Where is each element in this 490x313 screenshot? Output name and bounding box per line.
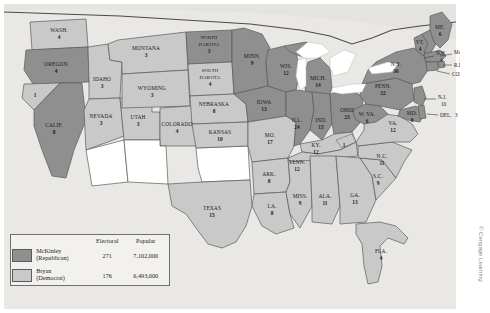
label-oh: OHIO xyxy=(340,107,354,113)
territory-new-mexico[interactable] xyxy=(124,140,168,184)
credit-line: © Cengage Learning xyxy=(475,226,487,310)
votes-al: 11 xyxy=(322,200,327,206)
votes-la: 8 xyxy=(271,210,274,216)
legend-name-mckinley: McKinley (Republican) xyxy=(33,245,92,265)
credit-text: © Cengage Learning xyxy=(478,226,484,281)
votes-nd: 3 xyxy=(208,48,211,54)
votes-nh: 4 xyxy=(440,57,443,63)
legend-name-bryan-line1: Bryan xyxy=(36,267,51,274)
votes-ky-split: 1 xyxy=(343,142,346,148)
legend-header-name xyxy=(33,235,92,245)
label-ne: NEBRASKA xyxy=(199,101,229,107)
legend-header-electoral: Electoral xyxy=(92,235,122,245)
votes-mi: 14 xyxy=(315,82,321,88)
election-map-1896: WASH. 4 OREGON 4 CALIF. 8 1 IDAHO 3 NEVA… xyxy=(0,0,490,313)
label-mo: MO. xyxy=(265,132,275,138)
label-nd-1: NORTH xyxy=(201,35,218,40)
label-mn: MINN. xyxy=(244,53,260,59)
votes-ca: 8 xyxy=(53,129,56,135)
legend-row-bryan[interactable]: Bryan (Democrat) 176 6,493,000 xyxy=(11,265,169,285)
label-tx: TEXAS xyxy=(203,205,221,211)
label-vt: VT. xyxy=(416,39,425,45)
votes-va: 12 xyxy=(390,127,396,133)
votes-nv: 3 xyxy=(100,120,103,126)
label-md: MD. xyxy=(407,110,417,116)
votes-co: 4 xyxy=(176,128,179,134)
votes-ut: 3 xyxy=(137,121,140,127)
label-nd-2: DAKOTA xyxy=(199,42,220,47)
votes-fl: 4 xyxy=(380,255,383,261)
label-wy: WYOMING xyxy=(138,85,166,91)
votes-vt: 4 xyxy=(419,46,422,52)
legend-electoral-bryan: 176 xyxy=(92,265,122,285)
label-nh: N.H. xyxy=(436,50,446,56)
label-ct: CONN. xyxy=(452,71,460,77)
votes-ia: 13 xyxy=(261,106,267,112)
legend-header-row: Electoral Popular xyxy=(11,235,169,245)
votes-ca-split: 1 xyxy=(34,92,37,98)
label-mi: MICH. xyxy=(310,75,326,81)
votes-wi: 12 xyxy=(283,70,289,76)
votes-ga: 13 xyxy=(352,199,358,205)
label-ut: UTAH xyxy=(130,114,145,120)
label-va: VA. xyxy=(389,120,398,126)
territory-oklahoma[interactable] xyxy=(196,146,250,182)
legend-swatch-cell-bryan xyxy=(11,265,33,285)
label-co: COLORADO xyxy=(161,121,192,127)
votes-me: 6 xyxy=(439,31,442,37)
label-nc: N.C. xyxy=(377,153,388,159)
label-wv: W. VA. xyxy=(359,111,376,117)
label-pa: PENN. xyxy=(375,83,391,89)
votes-md: 8 xyxy=(411,117,414,123)
label-mt: MONTANA xyxy=(132,45,160,51)
legend-electoral-mckinley: 271 xyxy=(92,245,122,265)
label-ny: N.Y. xyxy=(391,61,401,67)
votes-tx: 15 xyxy=(209,212,215,218)
label-sd-1: SOUTH xyxy=(202,68,219,73)
legend-swatch-cell-mckinley xyxy=(11,245,33,265)
label-ks: KANSAS xyxy=(209,129,231,135)
label-ia: IOWA xyxy=(257,99,272,105)
state-ks[interactable] xyxy=(192,122,248,148)
votes-ny: 36 xyxy=(393,68,399,74)
label-or: OREGON xyxy=(44,61,67,67)
label-ar: ARK. xyxy=(262,171,275,177)
votes-wv: 6 xyxy=(366,118,369,124)
votes-mn: 9 xyxy=(251,60,254,66)
label-al: ALA. xyxy=(318,193,331,199)
label-wa: WASH. xyxy=(50,27,67,33)
votes-il: 24 xyxy=(294,124,300,130)
legend-name-mckinley-line2: (Republican) xyxy=(36,254,68,261)
state-ct[interactable] xyxy=(426,62,438,71)
votes-pa: 32 xyxy=(380,90,386,96)
votes-nc: 11 xyxy=(379,160,384,166)
legend-name-bryan-line2: (Democrat) xyxy=(36,274,65,281)
label-de: DEL. xyxy=(440,112,451,118)
legend-table: Electoral Popular McKinley (Republican) … xyxy=(11,235,169,285)
legend-swatch-bryan xyxy=(12,269,32,282)
label-il: ILL. xyxy=(292,117,302,123)
label-me: ME. xyxy=(435,24,445,30)
label-sc: S.C. xyxy=(373,173,383,179)
label-wi: WIS. xyxy=(280,63,292,69)
votes-sc: 9 xyxy=(377,180,380,186)
label-ri: R.I. xyxy=(454,62,460,68)
legend-popular-bryan: 6,493,000 xyxy=(122,265,169,285)
legend-row-mckinley[interactable]: McKinley (Republican) 271 7,102,000 xyxy=(11,245,169,265)
label-sd-2: DAKOTA xyxy=(200,75,221,80)
votes-de: 3 xyxy=(455,112,458,118)
votes-mt: 3 xyxy=(145,52,148,58)
legend-name-mckinley-line1: McKinley xyxy=(36,247,61,254)
votes-ms: 9 xyxy=(299,200,302,206)
state-al[interactable] xyxy=(310,156,340,224)
votes-tn: 12 xyxy=(294,166,300,172)
votes-ar: 8 xyxy=(268,178,271,184)
label-in: IND. xyxy=(315,117,327,123)
votes-or: 4 xyxy=(55,68,58,74)
label-tn: TENN. xyxy=(289,159,305,165)
label-ga: GA. xyxy=(350,192,360,198)
label-ky: KY. xyxy=(312,142,321,148)
label-ma: MASS. xyxy=(454,49,460,55)
votes-wy: 3 xyxy=(151,92,154,98)
legend-header-popular: Popular xyxy=(122,235,169,245)
